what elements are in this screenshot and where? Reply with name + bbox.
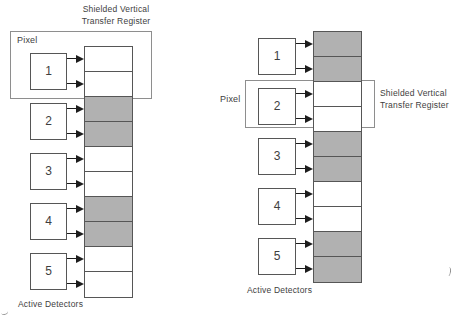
register-cell — [314, 107, 361, 132]
detector-box: 3 — [258, 138, 296, 175]
register-cell — [85, 222, 132, 247]
transfer-arrow-icon — [296, 264, 313, 273]
arrow-head — [76, 255, 84, 263]
arrow-head — [76, 80, 84, 88]
register-cell — [314, 257, 361, 282]
register-cell — [85, 172, 132, 197]
transfer-arrow-icon — [296, 164, 313, 173]
register-cell — [85, 72, 132, 97]
register-title-line2: Transfer Register — [54, 15, 178, 27]
register-cell — [314, 157, 361, 182]
detector-number: 5 — [274, 249, 281, 263]
register-cell — [85, 97, 132, 122]
detector-box: 5 — [258, 238, 296, 275]
arrow-head — [76, 280, 84, 288]
detector-number: 2 — [45, 114, 52, 128]
arrow-head — [76, 155, 84, 163]
arrow-head — [305, 215, 313, 223]
arrow-head — [305, 190, 313, 198]
detector-number: 4 — [274, 199, 281, 213]
detector-box: 3 — [30, 153, 67, 190]
register-title: Shielded Vertical Transfer Register — [380, 87, 449, 111]
arrow-head — [305, 165, 313, 173]
arrow-head — [305, 90, 313, 98]
active-detectors-label: Active Detectors — [18, 298, 83, 310]
transfer-arrow-icon — [67, 104, 84, 113]
register-cell — [85, 272, 132, 297]
detector-box: 5 — [30, 253, 67, 290]
ccd-transfer-register-figure: Shielded Vertical Transfer Register Pixe… — [0, 0, 451, 316]
transfer-arrow-icon — [67, 204, 84, 213]
arrow-head — [305, 40, 313, 48]
register-title-line1: Shielded Vertical — [54, 3, 178, 15]
detector-number: 3 — [45, 164, 52, 178]
register-cell — [85, 147, 132, 172]
transfer-arrow-icon — [67, 54, 84, 63]
register-title-line1: Shielded Vertical — [380, 87, 449, 99]
detector-box: 1 — [258, 38, 296, 75]
arrow-head — [76, 180, 84, 188]
arrow-head — [305, 265, 313, 273]
transfer-arrow-icon — [296, 139, 313, 148]
detector-number: 1 — [45, 64, 52, 78]
arrow-head — [305, 65, 313, 73]
register-cell — [314, 132, 361, 157]
transfer-arrow-icon — [296, 214, 313, 223]
register-cell — [314, 182, 361, 207]
register-cell — [85, 47, 132, 72]
register-column — [313, 31, 362, 283]
register-cell — [314, 32, 361, 57]
detector-number: 3 — [274, 149, 281, 163]
transfer-arrow-icon — [67, 179, 84, 188]
register-title: Shielded Vertical Transfer Register — [54, 3, 178, 27]
transfer-arrow-icon — [67, 129, 84, 138]
scan-artifact — [1, 309, 9, 316]
arrow-head — [305, 240, 313, 248]
transfer-arrow-icon — [296, 64, 313, 73]
scan-artifact — [446, 267, 451, 276]
register-cell — [314, 207, 361, 232]
register-cell — [85, 122, 132, 147]
register-cell — [314, 82, 361, 107]
transfer-arrow-icon — [296, 189, 313, 198]
transfer-arrow-icon — [67, 79, 84, 88]
transfer-arrow-icon — [67, 154, 84, 163]
arrow-head — [76, 105, 84, 113]
detector-number: 4 — [45, 214, 52, 228]
register-title-line2: Transfer Register — [380, 99, 449, 111]
arrow-head — [76, 55, 84, 63]
arrow-head — [76, 130, 84, 138]
arrow-head — [305, 140, 313, 148]
detector-number: 5 — [45, 264, 52, 278]
transfer-arrow-icon — [296, 39, 313, 48]
register-cell — [314, 57, 361, 82]
arrow-head — [305, 115, 313, 123]
detector-box: 4 — [258, 188, 296, 225]
register-cell — [85, 247, 132, 272]
transfer-arrow-icon — [296, 89, 313, 98]
register-cell — [314, 232, 361, 257]
active-detectors-label: Active Detectors — [247, 284, 312, 296]
transfer-arrow-icon — [296, 239, 313, 248]
transfer-arrow-icon — [67, 279, 84, 288]
transfer-arrow-icon — [296, 114, 313, 123]
register-cell — [85, 197, 132, 222]
register-column — [84, 46, 133, 298]
arrow-head — [76, 205, 84, 213]
detector-box: 2 — [30, 103, 67, 140]
detector-box: 1 — [30, 53, 67, 90]
transfer-arrow-icon — [67, 254, 84, 263]
arrow-head — [76, 230, 84, 238]
detector-box: 4 — [30, 203, 67, 240]
detector-number: 2 — [274, 99, 281, 113]
pixel-label: Pixel — [220, 93, 241, 105]
transfer-arrow-icon — [67, 229, 84, 238]
detector-number: 1 — [274, 49, 281, 63]
detector-box: 2 — [258, 88, 296, 125]
